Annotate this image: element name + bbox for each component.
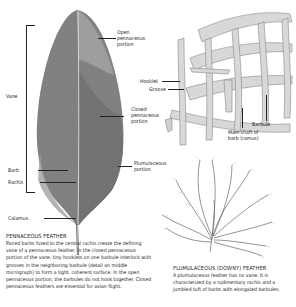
calamus-leader (44, 218, 76, 219)
vane-bracket-top (26, 25, 35, 26)
pennaceous-description: Paired barbs fused to the central rachis… (6, 240, 152, 290)
plumulaceous-feather-drawing (162, 160, 272, 256)
open-pennaceous-leader (98, 38, 116, 39)
label-rachis: Rachis (8, 179, 23, 185)
label-closed-pennaceous: Closed pennaceous portion (131, 106, 159, 124)
label-barb: Barb (8, 167, 19, 173)
label-hooklet: Hooklet (140, 78, 158, 84)
main-shaft-leader (242, 108, 243, 128)
label-calamus: Calamus (8, 215, 28, 221)
label-barbule: Barbule (252, 121, 270, 127)
vane-bracket-bottom (26, 192, 35, 193)
pennaceous-heading: PENNACEOUS FEATHER (6, 233, 67, 239)
barbule-leader (266, 95, 267, 121)
label-groove: Groove (149, 86, 166, 92)
plumulaceous-leader (118, 166, 132, 167)
label-vane: Vane (6, 93, 17, 99)
label-open-pennaceous: Open pennaceous portion (117, 29, 145, 47)
plumulaceous-description: A plumulaceous feather has no vane. It i… (173, 272, 295, 294)
vane-bracket-vertical (26, 25, 27, 192)
label-main-shaft: Main shaft of barb (ramus) (228, 129, 259, 141)
hooklet-leader (162, 81, 180, 82)
rachis-leader (40, 182, 76, 183)
groove-leader (168, 89, 184, 90)
plumulaceous-heading: PLUMULACEOUS (DOWNY) FEATHER (173, 265, 266, 271)
label-plumulaceous-portion: Plumulaceous portion (134, 160, 166, 172)
closed-pennaceous-leader (100, 116, 124, 117)
barb-detail-drawing (165, 13, 292, 145)
barb-leader (38, 170, 68, 171)
